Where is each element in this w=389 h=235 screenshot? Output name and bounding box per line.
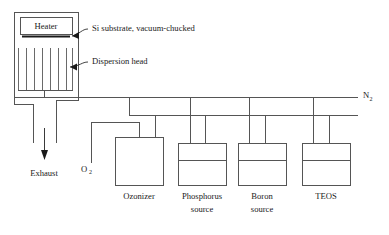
exhaust-label: Exhaust <box>30 168 58 178</box>
phosphorus-label-line1: Phosphorus <box>182 191 223 201</box>
dispersion-head-label: Dispersion head <box>92 56 148 66</box>
vessel-teos-source: TEOS <box>302 143 350 201</box>
ozonizer-label-line1: Ozonizer <box>123 191 155 201</box>
phosphorus-body <box>178 143 226 185</box>
dispersion-annotation: Dispersion head <box>70 56 148 71</box>
boron-label-line1: Boron <box>251 191 273 201</box>
nitrogen-subscript: 2 <box>370 96 373 102</box>
vessel-boron-source: Boron source <box>238 143 286 214</box>
vessel-ozonizer: Ozonizer <box>115 137 163 201</box>
product-manifold <box>129 97 358 143</box>
exhaust-arrowhead <box>41 150 48 160</box>
boron-label-line2: source <box>251 204 274 214</box>
exhaust-duct: Exhaust <box>30 110 58 178</box>
ozonizer-body <box>115 137 163 185</box>
si-substrate-label: Si substrate, vacuum-chucked <box>92 23 196 33</box>
dispersion-head-feed <box>44 90 129 97</box>
phosphorus-label-line2: source <box>191 204 214 214</box>
dispersion-head-fins <box>18 48 72 90</box>
diagram-canvas: Heater Si substrate, vacuum-ch <box>0 0 389 235</box>
heater-box: Heater <box>20 17 72 34</box>
cvd-reactor-diagram: Heater Si substrate, vacuum-ch <box>0 0 389 235</box>
dispersion-arrowhead <box>70 64 77 71</box>
teos-body <box>302 143 350 185</box>
vessel-phosphorus-source: Phosphorus source <box>178 143 226 214</box>
oxygen-label: O <box>81 164 87 174</box>
heater-label: Heater <box>35 21 58 31</box>
oxygen-subscript: 2 <box>89 169 92 175</box>
substrate-arrowhead <box>72 32 79 39</box>
teos-label-line1: TEOS <box>315 191 337 201</box>
boron-body <box>238 143 286 185</box>
substrate-annotation: Si substrate, vacuum-chucked <box>72 23 196 39</box>
